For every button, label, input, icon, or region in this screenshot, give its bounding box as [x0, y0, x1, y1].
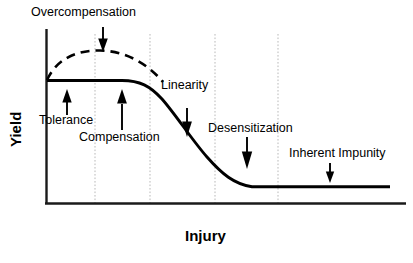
- x-axis-label: Injury: [185, 228, 226, 243]
- inherent-impunity-arrow-icon: [326, 163, 334, 183]
- annotation-label-tolerance: Tolerance: [39, 114, 93, 127]
- axes: [45, 29, 406, 204]
- y-axis-label: Yield: [8, 112, 23, 147]
- annotation-label-overcompensation: Overcompensation: [31, 6, 136, 19]
- chart-canvas: [0, 0, 413, 263]
- annotation-label-compensation: Compensation: [79, 131, 160, 144]
- tolerance-arrow-icon: [62, 89, 71, 115]
- compensation-arrow-icon: [117, 89, 127, 130]
- series-overcompensation-dashed: [47, 50, 163, 82]
- chart-figure: Overcompensation Tolerance Compensation …: [0, 0, 413, 263]
- annotation-label-desensitization: Desensitization: [208, 122, 293, 135]
- overcompensation-arrow-icon: [98, 27, 108, 52]
- annotation-label-linearity: Linearity: [161, 79, 208, 92]
- desensitization-arrow-icon: [242, 137, 252, 169]
- annotation-label-inherent-impunity: Inherent Impunity: [289, 147, 386, 160]
- linearity-arrow-icon: [182, 108, 192, 137]
